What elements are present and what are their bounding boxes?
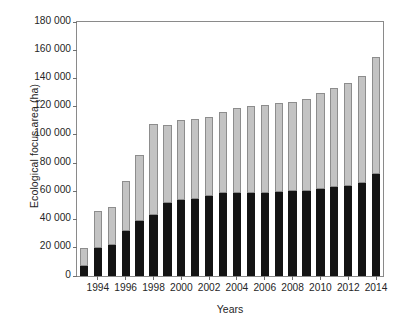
bar-segment-lower <box>288 191 296 276</box>
bar-segment-upper <box>275 103 283 192</box>
bar-1994 <box>94 211 102 276</box>
y-tick-mark <box>73 191 77 192</box>
bar-2005 <box>247 106 255 276</box>
bar-2010 <box>316 93 324 276</box>
bar-segment-lower <box>191 199 199 276</box>
bar-1993 <box>80 248 88 276</box>
bar-segment-upper <box>288 102 296 192</box>
x-tick-label: 1996 <box>114 282 137 293</box>
bar-segment-upper <box>177 120 185 200</box>
x-tick-mark <box>181 276 182 280</box>
y-tick-label: 0 <box>65 269 71 280</box>
bar-segment-upper <box>302 99 310 191</box>
bar-2000 <box>177 120 185 276</box>
x-tick-label: 2000 <box>170 282 193 293</box>
x-tick-mark <box>97 276 98 280</box>
bar-segment-lower <box>344 186 352 276</box>
x-axis-title: Years <box>76 303 384 315</box>
bar-segment-upper <box>344 83 352 186</box>
bar-segment-upper <box>108 207 116 245</box>
bar-2012 <box>344 83 352 276</box>
bar-segment-lower <box>261 193 269 276</box>
y-tick-mark <box>73 247 77 248</box>
y-tick-label: 40 000 <box>40 212 71 223</box>
x-tick-mark <box>348 276 349 280</box>
x-tick-mark <box>320 276 321 280</box>
x-tick-label: 1998 <box>142 282 165 293</box>
bar-segment-lower <box>302 191 310 276</box>
plot-area: 020 00040 00060 00080 000100 000120 0001… <box>76 21 384 277</box>
bar-2007 <box>275 103 283 276</box>
bar-segment-upper <box>94 211 102 248</box>
bar-segment-lower <box>122 231 130 276</box>
x-tick-mark <box>209 276 210 280</box>
bar-1996 <box>122 181 130 276</box>
bar-1998 <box>149 124 157 276</box>
bar-segment-lower <box>358 183 366 276</box>
bar-segment-upper <box>205 117 213 196</box>
y-tick-label: 20 000 <box>40 240 71 251</box>
y-tick-label: 60 000 <box>40 184 71 195</box>
x-tick-mark <box>264 276 265 280</box>
bar-segment-upper <box>330 88 338 187</box>
bar-2011 <box>330 88 338 276</box>
y-tick-label: 120 000 <box>34 99 71 110</box>
y-tick-label: 80 000 <box>40 156 71 167</box>
bar-2013 <box>358 76 366 276</box>
bar-1997 <box>135 155 143 276</box>
bar-segment-lower <box>80 266 88 276</box>
bar-segment-lower <box>94 248 102 276</box>
y-tick-mark <box>73 134 77 135</box>
x-tick-mark <box>153 276 154 280</box>
x-tick-mark <box>292 276 293 280</box>
y-tick-mark <box>73 219 77 220</box>
y-tick-mark <box>73 106 77 107</box>
x-tick-label: 2012 <box>337 282 360 293</box>
bar-segment-lower <box>149 215 157 276</box>
bar-segment-upper <box>122 181 130 230</box>
bar-segment-upper <box>149 124 157 215</box>
y-tick-label: 140 000 <box>34 71 71 82</box>
x-tick-label: 2008 <box>281 282 304 293</box>
bar-segment-lower <box>163 203 171 276</box>
y-tick-label: 100 000 <box>34 127 71 138</box>
bar-1999 <box>163 125 171 276</box>
x-tick-mark <box>376 276 377 280</box>
bar-segment-upper <box>135 155 143 221</box>
bar-segment-upper <box>163 125 171 203</box>
bar-segment-lower <box>177 200 185 276</box>
x-tick-label: 2002 <box>198 282 221 293</box>
y-tick-label: 180 000 <box>34 15 71 26</box>
bar-segment-upper <box>316 93 324 190</box>
x-tick-mark <box>236 276 237 280</box>
plot-inner: 020 00040 00060 00080 000100 000120 0001… <box>77 22 383 276</box>
bar-segment-lower <box>219 193 227 276</box>
bar-segment-lower <box>135 221 143 276</box>
bar-segment-lower <box>247 193 255 276</box>
x-tick-label: 2014 <box>365 282 388 293</box>
bar-segment-lower <box>275 192 283 276</box>
x-tick-label: 2004 <box>226 282 249 293</box>
bar-segment-upper <box>261 105 269 192</box>
bar-2002 <box>205 117 213 276</box>
y-tick-mark <box>73 276 77 277</box>
y-tick-mark <box>73 50 77 51</box>
y-tick-label: 160 000 <box>34 43 71 54</box>
x-tick-label: 2006 <box>253 282 276 293</box>
bar-2004 <box>233 108 241 276</box>
bar-2008 <box>288 102 296 276</box>
bar-segment-lower <box>330 187 338 276</box>
x-tick-label: 2010 <box>309 282 332 293</box>
bar-segment-upper <box>358 76 366 183</box>
bar-segment-lower <box>233 193 241 276</box>
bar-segment-upper <box>80 248 88 266</box>
bar-2006 <box>261 105 269 276</box>
bar-segment-upper <box>372 57 380 173</box>
bar-2001 <box>191 119 199 276</box>
bar-segment-upper <box>247 106 255 193</box>
bar-segment-lower <box>316 189 324 276</box>
bar-2014 <box>372 57 380 276</box>
bar-1995 <box>108 207 116 276</box>
x-tick-label: 1994 <box>87 282 110 293</box>
bar-2009 <box>302 99 310 276</box>
